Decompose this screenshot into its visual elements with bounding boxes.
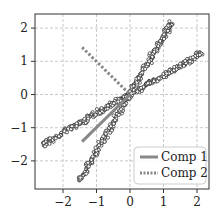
x-tick-label: 0 bbox=[126, 195, 134, 209]
chart: −2−1012 −2−1012 Comp 1 Comp 2 bbox=[0, 0, 222, 218]
legend-label-comp2: Comp 2 bbox=[161, 166, 208, 180]
y-tick-label: −2 bbox=[10, 154, 28, 168]
x-tick-label: 2 bbox=[193, 195, 201, 209]
x-tick-label: 1 bbox=[160, 195, 168, 209]
y-tick-label: 2 bbox=[20, 21, 28, 35]
y-tick-label: 1 bbox=[20, 54, 28, 68]
x-tick-label: −1 bbox=[88, 195, 106, 209]
legend: Comp 1 Comp 2 bbox=[134, 147, 208, 184]
x-tick-label: −2 bbox=[54, 195, 72, 209]
y-tick-label: −1 bbox=[10, 121, 28, 135]
x-axis-ticks: −2−1012 bbox=[54, 189, 201, 209]
y-axis-ticks: −2−1012 bbox=[10, 21, 35, 168]
legend-label-comp1: Comp 1 bbox=[161, 150, 208, 164]
y-tick-label: 0 bbox=[20, 88, 28, 102]
